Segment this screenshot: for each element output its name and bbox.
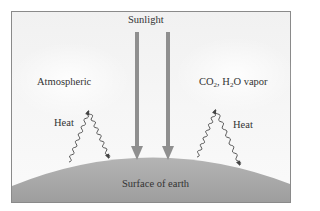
surface-label: Surface of earth — [122, 178, 189, 189]
atmospheric-label: Atmospheric — [37, 76, 91, 87]
sunlight-arrow-right — [162, 32, 174, 160]
gases-label: CO2, H2O vapor — [199, 76, 268, 89]
heat-arrow-left — [69, 111, 110, 162]
cloud-right — [175, 37, 295, 113]
sunlight-arrow-left — [131, 32, 143, 160]
heat-label-right: Heat — [233, 119, 253, 130]
sunlight-label: Sunlight — [128, 14, 164, 25]
heat-label-left: Heat — [54, 117, 74, 128]
